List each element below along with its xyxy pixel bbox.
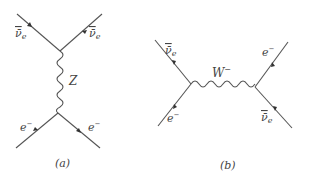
diagram-b: ν̄e e− W− e− ν̄e (b) [155, 40, 292, 172]
diagram-b-label-top-left: ν̄e [165, 44, 177, 58]
diagram-a-label-boson: Z [68, 74, 78, 88]
diagram-a-caption: (a) [55, 157, 70, 170]
diagram-b-label-bottom-left: e− [167, 111, 180, 125]
diagram-b-label-bottom-right: ν̄e [261, 111, 273, 125]
diagram-b-caption: (b) [220, 159, 236, 172]
diagram-b-label-boson: W− [212, 65, 231, 80]
feynman-diagrams-figure: ν̄e ν̄e Z e− e− (a) [0, 0, 310, 179]
diagram-a-z-boson-propagator [56, 51, 63, 113]
diagram-b-w-boson-propagator [191, 81, 255, 87]
diagram-a-label-bottom-right: e− [88, 120, 101, 134]
diagram-b-label-top-right: e− [262, 45, 275, 59]
diagram-a-label-top-right: ν̄e [89, 27, 101, 41]
diagram-a-label-top-left: ν̄e [15, 27, 27, 41]
diagram-a-label-bottom-left: e− [20, 120, 33, 134]
diagram-a: ν̄e ν̄e Z e− e− (a) [15, 14, 102, 170]
